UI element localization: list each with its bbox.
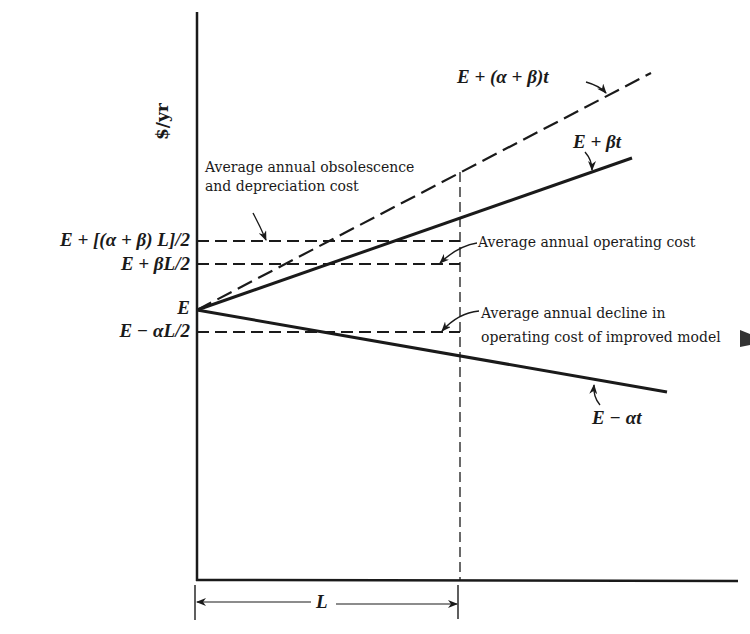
x-axis [196,580,738,581]
total-cost-line-label: E + (α + β)t [457,66,549,88]
operating-line-pointer-arrow [585,152,592,170]
y-axis-label: $/yr [152,103,172,140]
y-label-operating-level: E + βL/2 [121,253,190,275]
decline-annotation-line-1: Average annual decline in [481,301,721,325]
improved-line-pointer-arrow [594,385,600,405]
y-label-origin: E [177,297,190,319]
operating-pointer-arrow [440,243,477,263]
obsolescence-annotation: Average annual obsolescence and deprecia… [205,158,414,196]
decline-annotation: Average annual decline in operating cost… [481,301,721,349]
life-dimension-label: L [316,591,328,613]
obsolescence-pointer-arrow [253,213,266,240]
decline-annotation-line-2: operating cost of improved model [481,325,721,349]
scan-mark [740,330,750,347]
operating-annotation: Average annual operating cost [478,233,695,252]
obsolescence-annotation-line-2: and depreciation cost [205,177,414,196]
obsolescence-annotation-line-1: Average annual obsolescence [205,158,414,177]
operating-cost-line-label: E + βt [573,131,621,153]
improved-model-line-label: E − αt [592,407,641,429]
y-label-decline-level: E − αL/2 [119,320,190,342]
y-label-obsolescence-level: E + [(α + β) L]/2 [60,229,190,251]
total-line-pointer-arrow [586,82,606,93]
